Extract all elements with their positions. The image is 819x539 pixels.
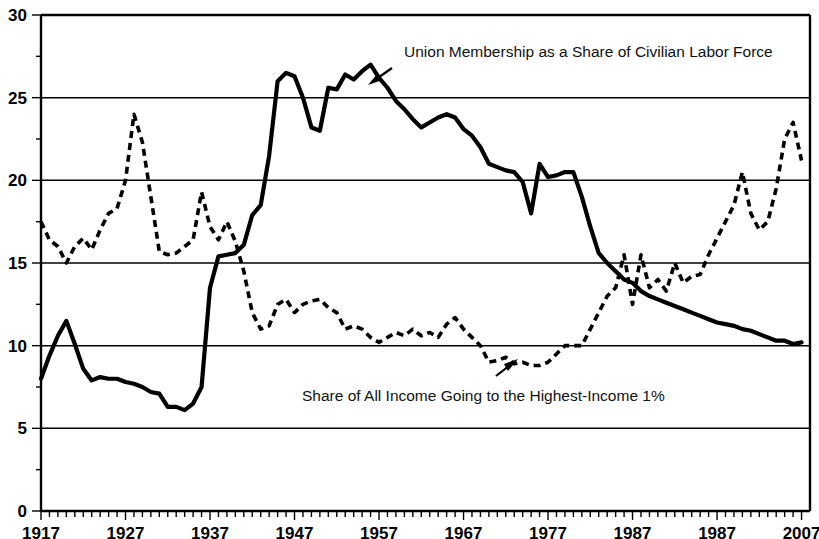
union-annotation-leader	[368, 68, 392, 85]
x-tick-label-8: 1987	[698, 524, 736, 539]
income-annotation-leader	[496, 359, 518, 376]
annotation-income-share: Share of All Income Going to the Highest…	[302, 387, 665, 404]
y-tick-label-5: 5	[18, 419, 27, 438]
x-tick-label-0: 1917	[22, 524, 60, 539]
y-tick-label-20: 20	[8, 171, 27, 190]
series-top-income-share-line	[41, 114, 802, 365]
annotation-union-membership: Union Membership as a Share of Civilian …	[404, 43, 773, 60]
y-tick-label-25: 25	[8, 89, 27, 108]
y-tick-label-10: 10	[8, 337, 27, 356]
x-axis-ticks	[41, 511, 802, 520]
chart-figure: 051015202530 191719271937194719571967197…	[0, 0, 819, 539]
x-tick-label-6: 1977	[529, 524, 567, 539]
y-tick-label-30: 30	[8, 6, 27, 25]
x-axis-labels: 1917192719371947195719671977198719872007	[22, 524, 819, 539]
series-union-membership-line	[41, 65, 802, 411]
series-group	[41, 65, 802, 411]
x-tick-label-4: 1957	[360, 524, 398, 539]
gridlines	[41, 98, 810, 429]
y-tick-label-15: 15	[8, 254, 27, 273]
y-tick-label-0: 0	[18, 502, 27, 521]
y-axis: 051015202530	[8, 6, 41, 521]
x-tick-label-3: 1947	[276, 524, 314, 539]
x-tick-label-9: 2007	[783, 524, 819, 539]
x-tick-label-5: 1967	[445, 524, 483, 539]
x-tick-label-2: 1937	[191, 524, 229, 539]
chart-canvas: 051015202530 191719271937194719571967197…	[0, 0, 819, 539]
x-tick-label-1: 1927	[107, 524, 145, 539]
x-tick-label-7: 1987	[614, 524, 652, 539]
